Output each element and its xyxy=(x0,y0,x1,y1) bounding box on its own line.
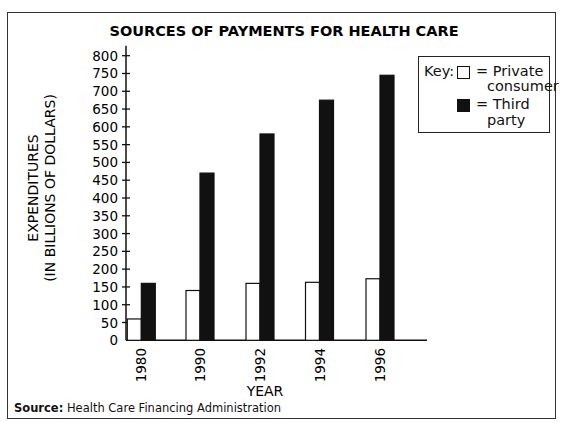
bar-private-consumer-1980 xyxy=(127,319,141,340)
y-tick-label: 800 xyxy=(92,48,118,64)
y-tick-label: 400 xyxy=(92,190,118,206)
y-tick-label: 500 xyxy=(92,154,118,170)
x-tick-label: 1996 xyxy=(372,348,388,382)
legend: Key: = Private consumer = Third party xyxy=(418,56,550,133)
y-tick-label: 100 xyxy=(92,297,118,313)
y-axis-label-line1: EXPENDITURES xyxy=(25,134,41,241)
bar-third-party-1996 xyxy=(380,75,394,340)
y-tick-label: 0 xyxy=(109,332,118,348)
x-tick-label: 1992 xyxy=(252,348,268,382)
y-tick-label: 700 xyxy=(92,83,118,99)
y-tick-label: 150 xyxy=(92,279,118,295)
y-tick-label: 300 xyxy=(92,226,118,242)
y-tick-label: 350 xyxy=(92,208,118,224)
y-tick-label: 650 xyxy=(92,101,118,117)
bar-third-party-1980 xyxy=(141,283,155,340)
legend-swatch-third-party xyxy=(457,99,470,112)
chart-title: SOURCES OF PAYMENTS FOR HEALTH CARE xyxy=(109,23,458,39)
y-tick-label: 450 xyxy=(92,172,118,188)
source-label: Source: xyxy=(14,401,63,415)
y-tick-label: 250 xyxy=(92,243,118,259)
y-tick-label: 750 xyxy=(92,65,118,81)
bar-private-consumer-1996 xyxy=(366,279,380,341)
bar-third-party-1992 xyxy=(260,134,274,340)
legend-label-third-line2: party xyxy=(487,112,525,129)
x-axis-label: YEAR xyxy=(246,383,284,399)
y-tick-label: 50 xyxy=(101,315,118,331)
bar-third-party-1990 xyxy=(200,173,214,340)
source-text: Health Care Financing Administration xyxy=(67,401,281,415)
bar-private-consumer-1992 xyxy=(246,283,260,340)
x-tick-label: 1990 xyxy=(192,348,208,382)
x-tick-label: 1980 xyxy=(133,348,149,382)
legend-label-third-line1: = Third xyxy=(476,96,530,113)
bar-private-consumer-1994 xyxy=(306,282,320,340)
legend-swatch-private-consumer xyxy=(457,66,470,79)
bar-third-party-1994 xyxy=(320,100,334,340)
y-axis-label-line2: (IN BILLIONS OF DOLLARS) xyxy=(42,94,58,282)
legend-key-label: Key: xyxy=(424,63,454,80)
source-note: Source: Health Care Financing Administra… xyxy=(14,401,281,415)
bar-private-consumer-1990 xyxy=(186,290,200,340)
y-tick-label: 200 xyxy=(92,261,118,277)
y-tick-label: 600 xyxy=(92,119,118,135)
y-tick-label: 550 xyxy=(92,137,118,153)
x-tick-label: 1994 xyxy=(312,348,328,382)
legend-label-private-line2: consumer xyxy=(487,78,559,95)
